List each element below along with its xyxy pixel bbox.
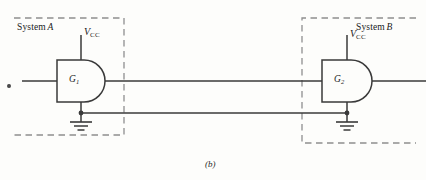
gate-g2-vcc-label: VCC xyxy=(350,28,366,41)
ground-symbol-a xyxy=(70,122,92,130)
gate-g2-body xyxy=(322,60,372,102)
gate-g1-label: G1 xyxy=(69,74,79,85)
gate-g1-vcc-label: VCC xyxy=(84,26,100,39)
gate-g1-body xyxy=(57,60,105,102)
junction-dot-b xyxy=(345,111,350,116)
scan-artifact-speck xyxy=(7,84,11,88)
system-a-label: SystemA xyxy=(17,22,53,32)
figure-caption: (b) xyxy=(205,159,216,169)
junction-dot-a xyxy=(79,111,84,116)
logic-interconnect-figure: SystemA SystemB VCC VCC G1 G2 (b) xyxy=(0,0,426,180)
gate-g2-label: G2 xyxy=(334,74,344,85)
ground-symbol-b xyxy=(336,122,358,130)
